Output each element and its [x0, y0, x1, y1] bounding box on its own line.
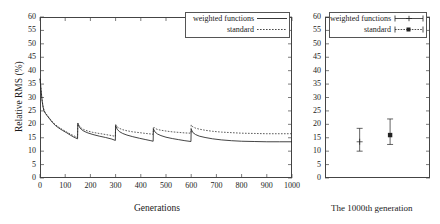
x-tick-label: 100 — [51, 181, 79, 190]
dotted-line-key — [257, 25, 287, 34]
x-axis-label: Generations — [134, 203, 180, 213]
y-tick-label: 60 — [16, 12, 36, 21]
legend-label-weighted-functions: weighted functions — [193, 14, 254, 23]
error-bar-square — [387, 119, 393, 144]
y-tick-label: 55 — [16, 25, 36, 34]
x-tick-label: 800 — [228, 181, 256, 190]
x-tick-label: 600 — [177, 181, 205, 190]
legend-label-standard: standard — [227, 25, 254, 34]
right-y-tick-label: 20 — [301, 119, 321, 128]
x-tick-label: 1000 — [278, 181, 306, 190]
series-weighted-functions-line — [40, 79, 292, 142]
right-y-tick-label: 60 — [301, 12, 321, 21]
right-axis-ticks — [325, 17, 430, 178]
right-y-tick-label: 15 — [301, 133, 321, 142]
y-tick-label: 25 — [16, 106, 36, 115]
right-y-tick-label: 50 — [301, 39, 321, 48]
y-tick-label: 40 — [16, 66, 36, 75]
x-tick-label: 200 — [76, 181, 104, 190]
right-error-bars — [357, 119, 393, 151]
right-y-tick-label: 45 — [301, 52, 321, 61]
right-y-tick-label: 5 — [301, 160, 321, 169]
legend-item-standard: standard — [186, 24, 289, 35]
legend-label-standard-right: standard — [364, 25, 391, 34]
left-axis-ticks — [40, 17, 292, 178]
x-tick-label: 500 — [152, 181, 180, 190]
left-plot-canvas — [40, 17, 292, 178]
errorbar-plus-key — [394, 14, 424, 23]
y-tick-label: 15 — [16, 133, 36, 142]
x-tick-label: 900 — [253, 181, 281, 190]
legend-label-weighted-functions-right: weighted functions — [330, 14, 391, 23]
right-y-tick-label: 40 — [301, 66, 321, 75]
errorbar-square-key — [394, 25, 424, 34]
right-y-tick-label: 55 — [301, 25, 321, 34]
right-panel-caption: The 1000th generation — [331, 203, 412, 213]
error-bar-plus — [357, 128, 363, 151]
x-tick-label: 700 — [202, 181, 230, 190]
y-tick-label: 50 — [16, 39, 36, 48]
legend-item-weighted-functions-right: weighted functions — [330, 13, 426, 24]
legend-item-weighted-functions: weighted functions — [186, 13, 289, 24]
x-tick-label: 400 — [127, 181, 155, 190]
legend-item-standard-right: standard — [330, 24, 426, 35]
y-tick-label: 5 — [16, 160, 36, 169]
right-y-tick-label: 25 — [301, 106, 321, 115]
x-tick-label: 0 — [26, 181, 54, 190]
solid-line-key — [257, 14, 287, 23]
right-y-tick-label: 30 — [301, 93, 321, 102]
right-y-tick-label: 35 — [301, 79, 321, 88]
y-tick-label: 20 — [16, 119, 36, 128]
right-plot-canvas — [325, 17, 430, 178]
left-legend: weighted functions standard — [185, 12, 290, 38]
y-tick-label: 35 — [16, 79, 36, 88]
y-tick-label: 45 — [16, 52, 36, 61]
right-legend: weighted functions standard — [329, 12, 427, 38]
y-tick-label: 10 — [16, 146, 36, 155]
x-tick-label: 300 — [102, 181, 130, 190]
figure-container: Relative RMS (%) 05101520253035404550556… — [0, 0, 440, 224]
right-y-tick-label: 10 — [301, 146, 321, 155]
right-y-tick-label: 0 — [301, 173, 321, 182]
y-tick-label: 30 — [16, 93, 36, 102]
